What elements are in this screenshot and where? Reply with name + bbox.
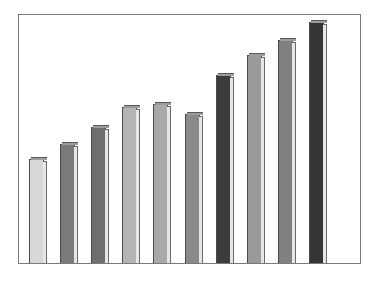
- bar-top-face: [187, 112, 203, 115]
- bar-top-face: [280, 38, 296, 41]
- bar-10: [309, 22, 324, 263]
- bar-1: [29, 159, 44, 263]
- bar-side-face: [261, 57, 265, 263]
- bar-side-face: [43, 161, 47, 263]
- bar-side-face: [199, 116, 203, 263]
- plot-area: [18, 14, 361, 264]
- bar-side-face: [167, 106, 171, 263]
- bar-9: [278, 40, 293, 263]
- bar-2: [60, 144, 75, 263]
- bar-7: [216, 75, 231, 263]
- bar-top-face: [249, 53, 265, 56]
- bar-8: [247, 55, 262, 263]
- bar-top-face: [62, 142, 78, 145]
- bar-6: [185, 114, 200, 263]
- bar-side-face: [230, 77, 234, 263]
- bar-top-face: [93, 125, 109, 128]
- bar-top-face: [155, 102, 171, 105]
- bar-4: [122, 107, 137, 263]
- bar-top-face: [124, 105, 140, 108]
- bar-top-face: [218, 73, 234, 76]
- bar-5: [153, 104, 168, 263]
- bar-side-face: [74, 146, 78, 263]
- bar-side-face: [292, 42, 296, 263]
- bar-side-face: [105, 129, 109, 263]
- bar-top-face: [311, 20, 327, 23]
- bar-side-face: [323, 24, 327, 263]
- bar-3: [91, 127, 106, 263]
- bar-top-face: [31, 157, 47, 160]
- bar-side-face: [136, 109, 140, 263]
